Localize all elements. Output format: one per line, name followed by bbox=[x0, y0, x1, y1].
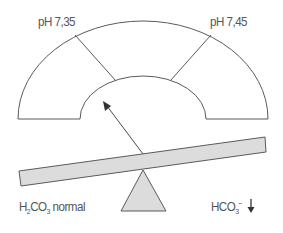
down-arrow-icon bbox=[248, 199, 255, 213]
h2co3-subscript-2: 2 bbox=[27, 207, 30, 216]
ph-7-45-label: pH 7,45 bbox=[210, 15, 247, 29]
hco3-charge: − bbox=[239, 199, 243, 208]
hco3-decreased-label: HCO3− bbox=[211, 200, 242, 214]
h2co3-prefix: H bbox=[19, 199, 27, 214]
hco3-subscript-3: 3 bbox=[235, 207, 238, 216]
ph-needle bbox=[107, 106, 143, 154]
ph-7-35-label: pH 7,35 bbox=[38, 15, 75, 29]
seesaw-fulcrum bbox=[121, 170, 166, 211]
hco3-prefix: HCO bbox=[211, 199, 235, 214]
h2co3-suffix: normal bbox=[50, 199, 85, 214]
acid-base-seesaw-diagram: pH 7,35 pH 7,45 H2CO3 normal HCO3− bbox=[0, 0, 283, 233]
h2co3-subscript-3: 3 bbox=[47, 207, 50, 216]
h2co3-normal-label: H2CO3 normal bbox=[19, 200, 85, 214]
ph-gauge-arch bbox=[18, 21, 268, 119]
h2co3-mid: CO bbox=[30, 199, 46, 214]
